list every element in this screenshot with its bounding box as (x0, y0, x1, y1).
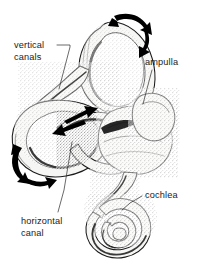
label-vertical-canals-line2: canals (14, 52, 42, 62)
labyrinth-illustration: vertical canals ampulla horizontal canal… (0, 0, 197, 273)
inner-ear-diagram: vertical canals ampulla horizontal canal… (0, 0, 197, 273)
label-cochlea: cochlea (145, 190, 178, 200)
ampulla (128, 88, 180, 144)
label-horizontal-canal-line2: canal (21, 228, 44, 238)
label-ampulla-line1: ampulla (145, 57, 179, 67)
label-horizontal-canal: horizontal canal (21, 216, 62, 238)
label-horizontal-canal-line1: horizontal (21, 216, 62, 226)
cochlea (80, 194, 160, 260)
label-ampulla: ampulla (145, 57, 179, 67)
label-vertical-canals: vertical canals (14, 40, 44, 62)
label-cochlea-line1: cochlea (145, 190, 178, 200)
label-vertical-canals-line1: vertical (14, 40, 44, 50)
